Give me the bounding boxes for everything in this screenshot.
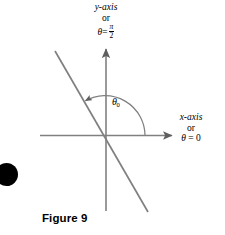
theta-subscript: 0 [116, 101, 119, 108]
y-axis-label-equation: θ=π2 [72, 23, 140, 39]
figure-9-container: y-axis or θ=π2 x-axis or θ = 0 θ0 Figure… [0, 0, 225, 235]
fraction-denominator: 2 [109, 32, 115, 40]
theta-zero-label: θ0 [112, 96, 120, 108]
theta-symbol-x: θ [181, 133, 186, 143]
zero-value: 0 [196, 133, 201, 143]
y-axis-label: y-axis or θ=π2 [72, 2, 140, 40]
x-axis-label-or: or [160, 123, 222, 134]
terminal-side-line [55, 51, 148, 212]
equals-sign-x: = [188, 133, 193, 143]
pi-over-two-fraction: π2 [109, 23, 115, 39]
equals-sign-y: = [102, 27, 107, 37]
x-axis-label-line1: x-axis [160, 112, 222, 123]
y-axis-label-line1: y-axis [72, 2, 140, 13]
y-axis-label-or: or [72, 13, 140, 24]
x-axis-label-equation: θ = 0 [160, 133, 222, 144]
figure-caption: Figure 9 [42, 212, 88, 224]
x-axis-label: x-axis or θ = 0 [160, 112, 222, 144]
